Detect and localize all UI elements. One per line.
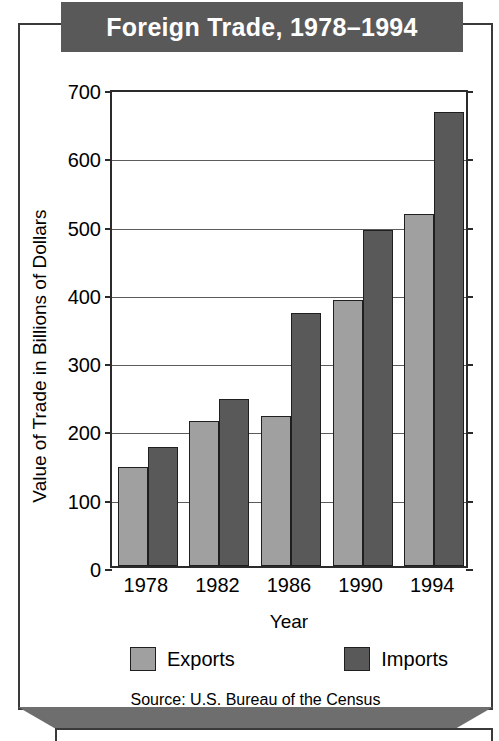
y-tick-mark (105, 364, 112, 366)
y-tick-label: 0 (31, 559, 101, 582)
y-tick-mark (466, 91, 473, 93)
bar-exports-1982 (189, 421, 219, 566)
x-tick-label: 1986 (267, 574, 312, 597)
y-tick-label: 700 (31, 81, 101, 104)
y-tick-mark (105, 159, 112, 161)
y-tick-mark (466, 501, 473, 503)
y-tick-mark (105, 501, 112, 503)
y-tick-mark (466, 296, 473, 298)
y-tick-mark (105, 569, 112, 571)
y-tick-mark (466, 432, 473, 434)
bar-exports-1990 (333, 300, 363, 566)
y-tick-label: 400 (31, 285, 101, 308)
legend-item-exports: Exports (130, 647, 235, 671)
y-tick-mark (105, 228, 112, 230)
source-note: Source: U.S. Bureau of the Census (18, 691, 493, 709)
legend-label-imports: Imports (381, 648, 448, 671)
bar-exports-1986 (261, 416, 291, 566)
x-tick-label: 1982 (195, 574, 240, 597)
y-tick-mark (105, 432, 112, 434)
bar-imports-1990 (363, 230, 393, 566)
bar-imports-1982 (219, 399, 249, 566)
x-tick-label: 1990 (338, 574, 383, 597)
bar-imports-1978 (148, 447, 178, 567)
bar-imports-1994 (434, 112, 464, 566)
plot-area: 0100200300400500600700 (110, 90, 468, 568)
chart-title-banner: Foreign Trade, 1978–1994 (61, 2, 463, 52)
chart-legend: Exports Imports (110, 647, 468, 671)
legend-item-imports: Imports (344, 647, 448, 671)
legend-swatch-exports-icon (130, 647, 156, 671)
bar-exports-1994 (404, 214, 434, 566)
y-tick-label: 200 (31, 422, 101, 445)
y-tick-mark (105, 91, 112, 93)
legend-label-exports: Exports (167, 648, 235, 671)
chart-title: Foreign Trade, 1978–1994 (106, 13, 418, 42)
x-tick-label: 1994 (410, 574, 455, 597)
y-tick-mark (466, 228, 473, 230)
y-tick-mark (466, 569, 473, 571)
y-tick-mark (466, 159, 473, 161)
chart-container: Value of Trade in Billions of Dollars 01… (18, 55, 493, 705)
bar-exports-1978 (118, 467, 148, 566)
y-tick-label: 500 (31, 217, 101, 240)
legend-swatch-imports-icon (344, 647, 370, 671)
decorative-frame-footer (55, 728, 493, 741)
y-tick-label: 100 (31, 490, 101, 513)
decorative-bottom-band (18, 707, 493, 729)
bars-layer (112, 92, 466, 566)
y-tick-mark (466, 364, 473, 366)
x-tick-label: 1978 (124, 574, 169, 597)
y-tick-label: 600 (31, 149, 101, 172)
bar-imports-1986 (291, 313, 321, 566)
x-axis-title: Year (110, 611, 468, 633)
y-tick-mark (105, 296, 112, 298)
chart-page: Foreign Trade, 1978–1994 Value of Trade … (0, 0, 499, 741)
y-tick-label: 300 (31, 354, 101, 377)
